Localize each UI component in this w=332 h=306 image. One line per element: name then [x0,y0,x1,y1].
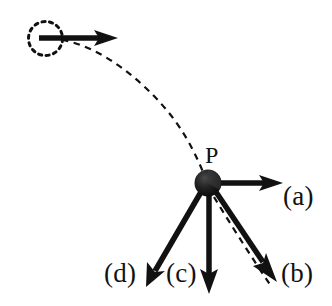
point-label-p: P [205,143,218,167]
ball-at-point-p [195,170,222,197]
choice-arrow-b [216,192,277,282]
choice-arrow-a [216,175,283,191]
choice-label-c: (c) [166,260,197,287]
physics-diagram-figure: P (a) (b) (c) (d) [0,0,332,306]
choice-label-d: (d) [104,260,136,287]
choice-label-a: (a) [283,183,314,210]
choice-label-b: (b) [281,260,313,287]
choice-arrow-c [200,194,218,294]
dashed-trajectory-curve [62,40,203,172]
dashed-trajectory-continuation [214,197,271,286]
